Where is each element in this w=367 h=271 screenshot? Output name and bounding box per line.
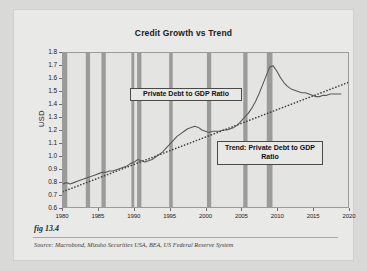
- x-tick-mark: [206, 208, 207, 211]
- x-tick-label: 1985: [85, 213, 111, 219]
- x-tick-label: 2000: [193, 213, 219, 219]
- caption-divider: [33, 237, 338, 238]
- x-tick-label: 2010: [264, 213, 290, 219]
- y-tick-label: 1.4: [35, 100, 57, 107]
- y-tick-label: 1.7: [35, 61, 57, 68]
- y-tick-label: 1.6: [35, 74, 57, 81]
- figure-caption: fig 13.4: [34, 224, 59, 233]
- figure-card: Credit Growth vs Trend USD 0.60.70.80.91…: [13, 9, 354, 261]
- y-tick-label: 1.0: [35, 152, 57, 159]
- x-tick-mark: [241, 208, 242, 211]
- chart-title: Credit Growth vs Trend: [14, 28, 353, 38]
- y-tick-label: 1.2: [35, 126, 57, 133]
- x-tick-mark: [277, 208, 278, 211]
- y-tick-label: 1.8: [35, 48, 57, 55]
- y-tick-label: 0.6: [35, 204, 57, 211]
- y-tick-label: 1.5: [35, 87, 57, 94]
- x-tick-mark: [349, 208, 350, 211]
- recession-band: [137, 53, 141, 207]
- x-tick-label: 2005: [228, 213, 254, 219]
- series-callout-label: Private Debt to GDP Ratio: [143, 90, 229, 99]
- trend-callout-label: Trend: Private Debt to GDP Ratio: [221, 144, 319, 162]
- recession-band: [86, 53, 90, 207]
- y-tick-label: 0.9: [35, 165, 57, 172]
- recession-band: [101, 53, 105, 207]
- plot-svg: [63, 53, 348, 207]
- y-tick-label: 0.8: [35, 178, 57, 185]
- x-tick-mark: [62, 208, 63, 211]
- x-tick-label: 1990: [121, 213, 147, 219]
- plot-area: [62, 52, 349, 208]
- y-tick-label: 1.3: [35, 113, 57, 120]
- recession-band: [131, 53, 134, 207]
- trend-callout: Trend: Private Debt to GDP Ratio: [217, 141, 323, 165]
- x-tick-label: 1995: [157, 213, 183, 219]
- x-tick-mark: [170, 208, 171, 211]
- y-tick-label: 0.7: [35, 191, 57, 198]
- x-tick-mark: [134, 208, 135, 211]
- recession-band: [267, 53, 273, 207]
- x-tick-mark: [313, 208, 314, 211]
- recession-band: [243, 53, 247, 207]
- screenshot-page: Credit Growth vs Trend USD 0.60.70.80.91…: [0, 0, 367, 271]
- x-tick-mark: [98, 208, 99, 211]
- x-tick-label: 2015: [300, 213, 326, 219]
- recession-bands: [63, 53, 272, 207]
- recession-band: [169, 53, 173, 207]
- y-tick-label: 1.1: [35, 139, 57, 146]
- x-tick-label: 2020: [336, 213, 362, 219]
- recession-band: [207, 53, 211, 207]
- source-note: Source: Macrobond, Mizuho Securities USA…: [34, 241, 233, 248]
- series-callout: Private Debt to GDP Ratio: [130, 88, 242, 101]
- x-tick-label: 1980: [49, 213, 75, 219]
